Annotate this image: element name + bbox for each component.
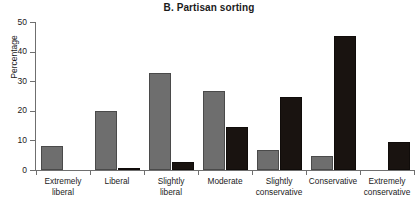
x-tick-mark — [306, 171, 307, 175]
bar — [257, 150, 279, 170]
y-tick-label: 40 — [0, 47, 27, 56]
y-tick-label: 30 — [0, 77, 27, 86]
x-category-label-line1: Extremely — [369, 176, 406, 186]
x-tick-mark — [252, 171, 253, 175]
y-tick-label: 20 — [0, 106, 27, 115]
bar — [118, 168, 140, 170]
y-tick-label: 10 — [0, 136, 27, 145]
x-category-label-line1: Moderate — [207, 176, 242, 186]
bar — [311, 156, 333, 170]
x-tick-mark — [198, 171, 199, 175]
bar — [226, 127, 248, 170]
x-category-label-line1: Extremely — [45, 176, 82, 186]
x-tick-mark — [90, 171, 91, 175]
x-category-label-line2: liberal — [30, 187, 96, 198]
bar — [203, 91, 225, 170]
bar — [95, 111, 117, 170]
x-category-label: Extremelyconservative — [354, 176, 418, 197]
x-tick-mark — [360, 171, 361, 175]
x-tick-mark — [414, 171, 415, 175]
bar — [280, 97, 302, 170]
x-category-label-line2: conservative — [246, 187, 312, 198]
x-category-label-line1: Liberal — [105, 176, 130, 186]
x-axis-line — [36, 170, 415, 171]
bar — [172, 162, 194, 170]
y-tick-mark — [30, 170, 35, 171]
x-category-label-line2: liberal — [138, 187, 204, 198]
y-tick-mark — [30, 140, 35, 141]
bar — [41, 146, 63, 170]
bar-chart: B. Partisan sorting Percentage 010203040… — [0, 0, 418, 206]
x-category-label-line2: conservative — [354, 187, 418, 198]
x-category-label-line1: Slightly — [266, 176, 293, 186]
x-tick-mark — [36, 171, 37, 175]
y-tick-label: 0 — [0, 166, 27, 175]
x-category-label-line1: Conservative — [309, 176, 357, 186]
y-tick-mark — [30, 52, 35, 53]
y-tick-mark — [30, 111, 35, 112]
bar — [388, 142, 410, 170]
x-tick-mark — [144, 171, 145, 175]
bar — [149, 73, 171, 170]
y-tick-mark — [30, 81, 35, 82]
chart-title: B. Partisan sorting — [0, 2, 418, 13]
y-tick-label: 50 — [0, 18, 27, 27]
y-tick-mark — [30, 22, 35, 23]
plot-area — [36, 22, 414, 170]
bar — [334, 36, 356, 170]
x-category-label-line1: Slightly — [158, 176, 185, 186]
